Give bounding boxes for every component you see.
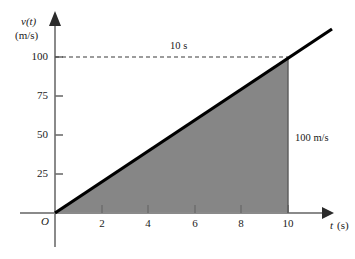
y-tick-label-25: 25 [16,168,48,179]
y-axis-label-name: v(t) [21,16,36,27]
final-velocity-annotation: 100 m/s [295,133,329,144]
y-tick-label-50: 50 [16,129,48,140]
x-tick-label-4: 4 [134,218,162,229]
y-axis-arrow-icon [49,11,61,26]
x-tick-label-2: 2 [88,218,116,229]
x-tick-label-8: 8 [227,218,255,229]
y-axis-ticks [55,57,63,174]
x-axis-arrow-icon [322,207,334,219]
y-tick-label-100: 100 [16,51,48,62]
y-tick-label-75: 75 [16,90,48,101]
origin-label: O [41,216,49,227]
velocity-time-chart: v(t) (m/s) t (s) O 100 75 50 25 2 4 6 8 … [0,0,355,259]
x-axis-label-name: t [330,220,333,231]
x-tick-label-10: 10 [274,218,302,229]
y-axis-label-unit: (m/s) [15,30,38,41]
duration-annotation: 10 s [170,41,187,52]
x-tick-label-6: 6 [181,218,209,229]
x-axis-label-unit: (s) [337,220,349,231]
